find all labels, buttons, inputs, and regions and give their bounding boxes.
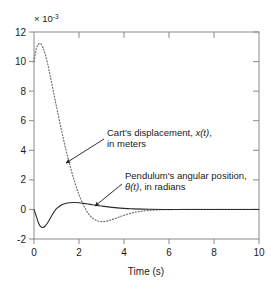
annotation-pendulum-line2: θ(t), in radians <box>125 181 186 192</box>
y-tick-label-10: 10 <box>15 56 27 67</box>
y-tick-label-8: 8 <box>20 86 26 97</box>
y-axis-tick-labels: 12 10 8 6 4 2 0 -2 <box>15 27 27 245</box>
y-axis-exponent-label: × 10-3 <box>34 13 59 25</box>
x-tick-label-0: 0 <box>31 247 37 258</box>
x-axis-tick-labels: 0 2 4 6 8 10 <box>31 247 265 258</box>
x-tick-label-2: 2 <box>76 247 82 258</box>
y-tick-label-2: 2 <box>20 174 26 185</box>
annot-cart-post: , <box>209 127 212 138</box>
exponent-power: -3 <box>53 13 59 20</box>
annot-pendulum-post: , in radians <box>139 181 186 192</box>
y-tick-label-6: 6 <box>20 115 26 126</box>
x-tick-label-8: 8 <box>211 247 217 258</box>
x-tick-label-4: 4 <box>121 247 127 258</box>
x-tick-label-6: 6 <box>166 247 172 258</box>
annotation-pendulum-line1: Pendulum's angular position, <box>125 170 247 181</box>
annot-pendulum-italic: θ(t) <box>125 181 139 192</box>
annotation-cart-displacement-line2: in meters <box>107 138 146 149</box>
exponent-prefix: × 10 <box>34 13 53 24</box>
annot-cart-pre: Cart's displacement, <box>107 127 195 138</box>
annot-cart-italic: x(t) <box>194 127 209 138</box>
y-tick-label-12: 12 <box>15 27 27 38</box>
figure-canvas: × 10-3 <box>0 0 280 290</box>
chart-plot: × 10-3 <box>0 0 280 290</box>
x-tick-label-10: 10 <box>253 247 265 258</box>
y-tick-label-minus2: -2 <box>17 234 26 245</box>
y-tick-label-4: 4 <box>20 145 26 156</box>
annotation-cart-displacement-line1: Cart's displacement, x(t), <box>107 127 212 138</box>
x-axis-title: Time (s) <box>128 266 164 277</box>
y-tick-label-0: 0 <box>20 204 26 215</box>
